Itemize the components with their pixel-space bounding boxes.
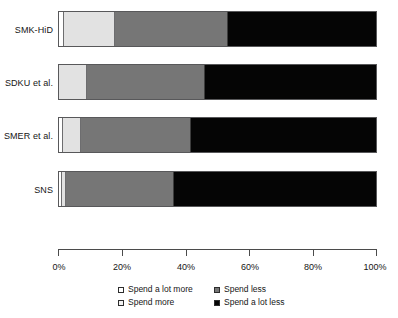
bar-segment-spend-a-lot-less bbox=[174, 172, 376, 206]
legend-item-spend-less: Spend less bbox=[214, 285, 298, 294]
bar-segment-spend-a-lot-less bbox=[191, 118, 376, 152]
x-axis-tick bbox=[122, 249, 123, 256]
bar-segment-spend-less bbox=[115, 12, 228, 46]
bar-row bbox=[58, 64, 377, 100]
category-label-2: SMER et al. bbox=[0, 131, 53, 141]
legend-item-spend-a-lot-less: Spend a lot less bbox=[214, 298, 298, 307]
bar-segment-spend-more bbox=[64, 12, 115, 46]
category-label-0: SMK-HiD bbox=[0, 25, 53, 35]
x-axis-tick-label: 80% bbox=[304, 262, 322, 272]
legend-swatch-icon bbox=[118, 300, 124, 306]
x-axis-tick bbox=[186, 249, 187, 256]
category-axis-labels: SMK-HiD SDKU et al. SMER et al. SNS bbox=[0, 0, 53, 220]
chart-legend: Spend a lot more Spend less Spend more S… bbox=[118, 283, 298, 309]
x-axis bbox=[58, 249, 377, 257]
legend-swatch-icon bbox=[214, 287, 220, 293]
category-label-1: SDKU et al. bbox=[0, 78, 53, 88]
x-axis-tick bbox=[376, 249, 377, 256]
bar-row bbox=[58, 171, 377, 207]
plot-area bbox=[58, 0, 377, 220]
x-axis-tick bbox=[58, 249, 59, 256]
x-axis-tick-label: 40% bbox=[177, 262, 195, 272]
legend-label: Spend a lot less bbox=[224, 298, 284, 307]
legend-swatch-icon bbox=[118, 287, 124, 293]
category-label-3: SNS bbox=[0, 185, 53, 195]
x-axis-tick bbox=[313, 249, 314, 256]
legend-item-spend-more: Spend more bbox=[118, 298, 214, 307]
bar-segment-spend-more bbox=[63, 118, 81, 152]
x-axis-tick-label: 100% bbox=[363, 262, 386, 272]
legend-item-spend-a-lot-more: Spend a lot more bbox=[118, 285, 214, 294]
stacked-bar-chart: SMK-HiD SDKU et al. SMER et al. SNS bbox=[0, 0, 398, 318]
bar-row bbox=[58, 11, 377, 47]
bar-segment-spend-less bbox=[66, 172, 174, 206]
x-axis-tick bbox=[249, 249, 250, 256]
bar-segment-spend-less bbox=[81, 118, 190, 152]
legend-label: Spend more bbox=[128, 298, 174, 307]
x-axis-tick-label: 60% bbox=[241, 262, 259, 272]
x-axis-tick-label: 0% bbox=[52, 262, 65, 272]
bar-segment-spend-a-lot-less bbox=[228, 12, 376, 46]
bar-segment-spend-a-lot-less bbox=[205, 65, 376, 99]
legend-swatch-icon bbox=[214, 300, 220, 306]
legend-label: Spend a lot more bbox=[128, 285, 193, 294]
bar-row bbox=[58, 117, 377, 153]
x-axis-tick-label: 20% bbox=[113, 262, 131, 272]
bar-segment-spend-more bbox=[59, 65, 87, 99]
x-axis-line bbox=[58, 249, 377, 250]
legend-label: Spend less bbox=[224, 285, 266, 294]
bar-segment-spend-less bbox=[87, 65, 205, 99]
